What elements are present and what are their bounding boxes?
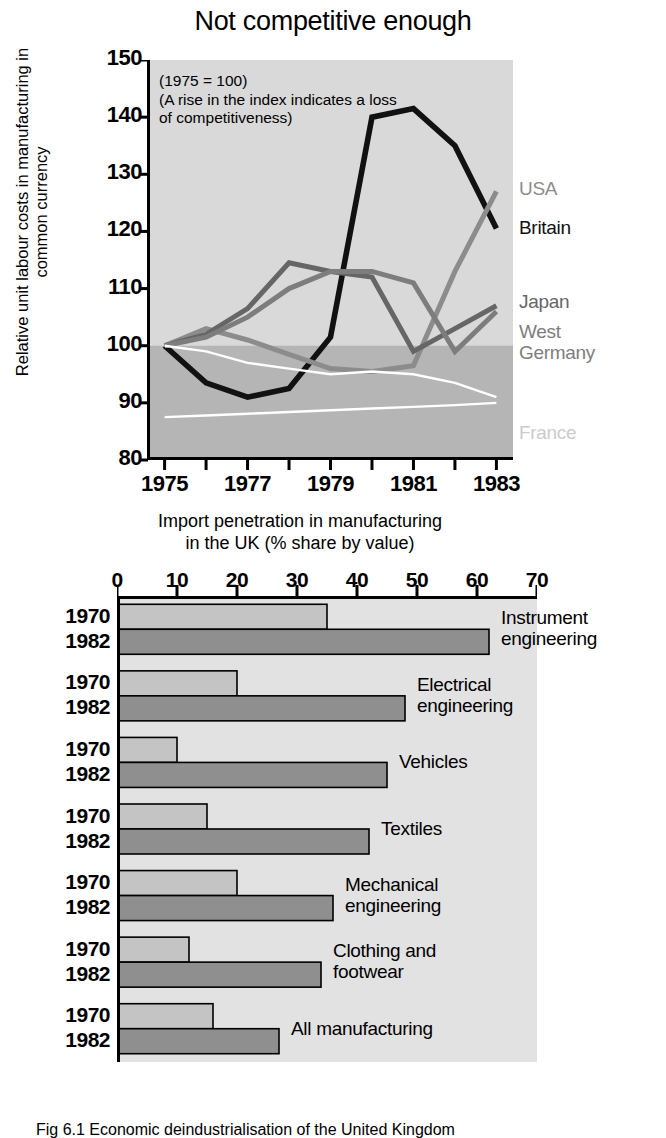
bar-1982-all-manufacturing xyxy=(117,1029,279,1054)
bar-1970-clothing-and-footwear xyxy=(117,937,189,962)
series-label-usa: USA xyxy=(519,178,557,199)
x-tick-label: 1975 xyxy=(130,471,200,497)
bar-year-label: 1982 xyxy=(65,962,110,986)
bar-chart-title: Import penetration in manufacturing in t… xyxy=(60,510,540,554)
x-tick-label: 1979 xyxy=(296,471,366,497)
bar-1970-textiles xyxy=(117,804,207,829)
line-chart-title: Not competitive enough xyxy=(0,6,666,37)
bar-1970-vehicles xyxy=(117,737,177,762)
bar-year-label: 1970 xyxy=(65,937,110,961)
bar-1970-instrument-engineering xyxy=(117,604,327,629)
bar-year-label: 1970 xyxy=(65,737,110,761)
line-chart-y-axis-label: Relative unit labour costs in manufactur… xyxy=(13,47,51,377)
line-chart-figure: Not competitive enough Relative unit lab… xyxy=(0,0,666,505)
x-tick-label: 1981 xyxy=(378,471,448,497)
figure-caption: Fig 6.1 Economic deindustrialisation of … xyxy=(36,1120,656,1138)
bar-1982-clothing-and-footwear xyxy=(117,962,321,987)
bar-year-label: 1970 xyxy=(65,670,110,694)
bar-1970-electrical-engineering xyxy=(117,671,237,696)
bar-1982-mechanical-engineering xyxy=(117,896,333,921)
bar-year-label: 1982 xyxy=(65,829,110,853)
bar-chart-figure: Import penetration in manufacturing in t… xyxy=(0,500,666,1110)
bar-year-label: 1982 xyxy=(65,629,110,653)
series-label-france: France xyxy=(519,422,576,443)
bar-chart-svg xyxy=(117,583,537,1062)
bar-1970-mechanical-engineering xyxy=(117,871,237,896)
series-label-britain: Britain xyxy=(519,217,571,238)
bar-chart-plot-area xyxy=(117,583,537,1049)
series-label-west-germany: West Germany xyxy=(519,321,595,363)
bar-year-label: 1970 xyxy=(65,604,110,628)
bar-1982-instrument-engineering xyxy=(117,629,489,654)
bar-1970-all-manufacturing xyxy=(117,1004,213,1029)
line-chart-x-tick-labels: 19751977197919811983 xyxy=(148,463,528,495)
bar-1982-textiles xyxy=(117,829,369,854)
x-tick-label: 1977 xyxy=(213,471,283,497)
line-chart-annotation: (1975 = 100) (A rise in the index indica… xyxy=(159,72,397,128)
bar-1982-vehicles xyxy=(117,762,387,787)
bar-1982-electrical-engineering xyxy=(117,696,405,721)
x-tick-label: 1983 xyxy=(461,471,531,497)
bar-year-label: 1970 xyxy=(65,870,110,894)
plot-background-below-100 xyxy=(148,346,513,460)
bar-year-label: 1970 xyxy=(65,804,110,828)
bar-year-label: 1982 xyxy=(65,695,110,719)
bar-year-label: 1982 xyxy=(65,762,110,786)
bar-year-label: 1982 xyxy=(65,895,110,919)
series-label-japan: Japan xyxy=(519,291,569,312)
bar-year-label: 1982 xyxy=(65,1028,110,1052)
bar-chart-year-labels: 1970198219701982197019821970198219701982… xyxy=(40,596,114,1062)
bar-year-label: 1970 xyxy=(65,1003,110,1027)
